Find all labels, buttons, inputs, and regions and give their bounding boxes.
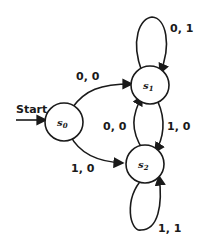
state-s1-sub: 1 [149, 84, 154, 93]
edge-s0-s2 [70, 135, 123, 163]
state-s2-sub: 2 [143, 163, 149, 172]
edge-label-s1-self: 0, 1 [170, 22, 193, 35]
state-diagram: Start 0, 0 1, 0 0, 1 0, 0 1, 0 1, 1 s0 s… [0, 0, 207, 247]
edge-s1-self [137, 17, 167, 73]
state-s0-sub: 0 [63, 121, 68, 130]
edge-s1-s2 [155, 102, 163, 152]
state-s2: s2 [126, 145, 164, 183]
start-label: Start [16, 103, 47, 116]
edge-s0-s1 [72, 84, 132, 108]
edge-label-s2-s1: 0, 0 [103, 120, 127, 133]
state-s0: s0 [45, 103, 83, 141]
edge-label-s0-s2: 1, 0 [71, 162, 95, 175]
state-s1: s1 [131, 66, 169, 104]
edge-s2-self [130, 176, 160, 230]
edge-label-s2-self: 1, 1 [158, 222, 181, 235]
edge-label-s1-s2: 1, 0 [167, 120, 191, 133]
edge-label-s0-s1: 0, 0 [76, 70, 100, 83]
edge-s2-s1 [134, 96, 143, 150]
